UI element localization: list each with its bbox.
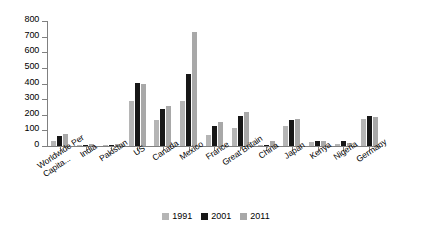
bar-1991 xyxy=(154,120,159,146)
y-axis-tick-label: 0 xyxy=(34,140,39,149)
bar-group xyxy=(253,21,279,146)
bar-2011 xyxy=(192,32,197,146)
legend-label: 2001 xyxy=(211,212,231,221)
bar-1991 xyxy=(129,101,134,146)
bar-group xyxy=(279,21,305,146)
bar-2001 xyxy=(135,83,140,146)
bar-2001 xyxy=(238,116,243,146)
bar-2011 xyxy=(141,84,146,147)
legend-label: 1991 xyxy=(172,212,192,221)
y-axis-tick-label: 300 xyxy=(25,93,39,102)
y-axis-tick-label: 600 xyxy=(25,46,39,55)
legend-swatch-icon xyxy=(162,213,169,220)
y-axis-tick-label: 200 xyxy=(25,109,39,118)
y-axis-tick-label: 700 xyxy=(25,31,39,40)
bar-2001 xyxy=(367,116,372,146)
legend-swatch-icon xyxy=(240,213,247,220)
y-axis-tick-label: 500 xyxy=(25,62,39,71)
bar-group xyxy=(356,21,382,146)
y-axis-tick-label: 800 xyxy=(25,15,39,24)
bar-groups xyxy=(47,21,382,146)
bar-2001 xyxy=(212,126,217,146)
bar-1991 xyxy=(232,128,237,146)
legend-item[interactable]: 1991 xyxy=(162,212,192,221)
bar-group xyxy=(73,21,99,146)
bar-group xyxy=(227,21,253,146)
bar-2001 xyxy=(289,120,294,146)
bar-1991 xyxy=(361,119,366,146)
chart-legend: 199120012011 xyxy=(0,212,432,221)
bar-1991 xyxy=(335,144,340,146)
y-axis-tick-label: 400 xyxy=(25,78,39,87)
bar-group xyxy=(47,21,73,146)
bar-group xyxy=(176,21,202,146)
x-axis-labels: Worldwide Per Capita...IndiaPakistanUSCa… xyxy=(47,147,382,209)
legend-swatch-icon xyxy=(201,213,208,220)
bar-1991 xyxy=(180,101,185,146)
y-axis-tick-label: 100 xyxy=(25,124,39,133)
bar-2001 xyxy=(186,74,191,146)
bar-1991 xyxy=(206,135,211,146)
bar-1991 xyxy=(51,141,56,146)
legend-item[interactable]: 2011 xyxy=(240,212,269,221)
legend-label: 2011 xyxy=(250,212,269,221)
bar-1991 xyxy=(283,126,288,146)
bar-group xyxy=(124,21,150,146)
bar-group xyxy=(202,21,228,146)
bar-1991 xyxy=(309,142,314,146)
bar-1991 xyxy=(103,145,108,146)
legend-item[interactable]: 2001 xyxy=(201,212,231,221)
bar-2001 xyxy=(160,109,165,146)
bar-group xyxy=(330,21,356,146)
bar-group xyxy=(99,21,125,146)
bar-group xyxy=(305,21,331,146)
bar-chart: 0100200300400500600700800 Worldwide Per … xyxy=(0,0,432,236)
bar-group xyxy=(150,21,176,146)
plot-area xyxy=(47,21,382,146)
